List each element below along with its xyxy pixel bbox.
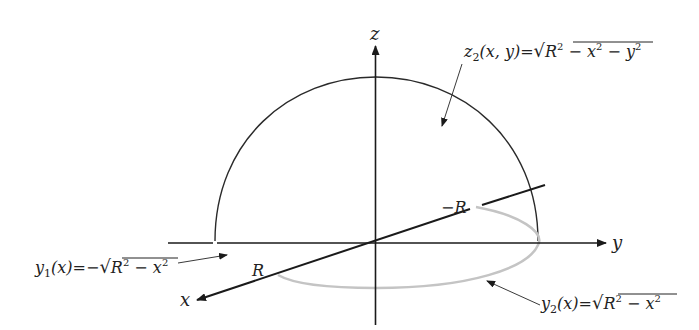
formula-z2: z2(x, y)=√R2 − x2 − y2 bbox=[463, 40, 653, 64]
y2-args: (x) bbox=[557, 294, 579, 313]
z2-subscript: 2 bbox=[472, 51, 479, 64]
x-axis-back-segment bbox=[482, 185, 545, 205]
hemisphere-diagram: z y x R −R z2(x, y)=√R2 − x2 − y2 y1(x)=… bbox=[0, 0, 699, 330]
x-axis-label: x bbox=[180, 289, 190, 310]
y1-subscript: 1 bbox=[44, 267, 51, 280]
z2-radical: √ bbox=[534, 40, 546, 61]
z-axis-label: z bbox=[369, 23, 380, 44]
z2-args: (x, y) bbox=[479, 42, 520, 61]
base-circle-curve bbox=[278, 207, 539, 288]
formula-y1: y1(x)=−√R2 − x2 bbox=[34, 256, 178, 280]
formula-y2: y2(x)=√R2 − x2 bbox=[540, 292, 677, 316]
y2-pointer-arrow bbox=[487, 281, 540, 305]
y1-args: (x) bbox=[51, 258, 73, 277]
svg-text:y1(x)=−√R2 − x2: y1(x)=−√R2 − x2 bbox=[34, 256, 168, 280]
y-axis-label: y bbox=[611, 232, 623, 253]
z2-equals: = bbox=[520, 42, 533, 61]
z2-pointer-arrow bbox=[442, 64, 462, 126]
point-label-neg-R: −R bbox=[441, 198, 466, 217]
svg-text:y2(x)=√R2 − x2: y2(x)=√R2 − x2 bbox=[540, 292, 661, 316]
y1-pointer-arrow bbox=[178, 255, 227, 263]
hemisphere-arc bbox=[215, 77, 538, 241]
z2-radicand-R: R bbox=[544, 42, 557, 61]
svg-text:z2(x, y)=√R2 − x2 − y2: z2(x, y)=√R2 − x2 − y2 bbox=[463, 40, 641, 64]
y2-subscript: 2 bbox=[550, 303, 557, 316]
point-label-R: R bbox=[251, 261, 264, 280]
